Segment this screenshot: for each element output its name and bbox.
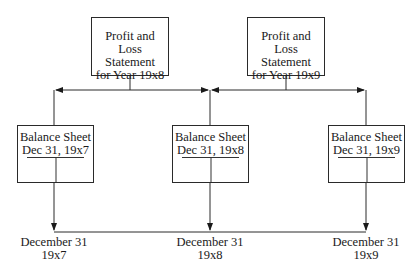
pl-statement-19x8: Profit and Loss Statement for Year 19x8 xyxy=(91,17,169,76)
balance-sheet-date: Dec 31, 19x7 xyxy=(18,144,93,157)
timeline-date-19x9: December 31 19x9 xyxy=(316,236,416,262)
pl-line1: Profit and Loss xyxy=(248,30,324,56)
balance-sheet-date: Dec 31, 19x8 xyxy=(173,144,248,157)
pl-line1: Profit and Loss xyxy=(92,30,168,56)
center-divider xyxy=(210,157,211,182)
date-line2: 19x8 xyxy=(160,249,260,262)
timeline-date-19x7: December 31 19x7 xyxy=(4,236,104,262)
pl-statement-19x9: Profit and Loss Statement for Year 19x9 xyxy=(247,17,325,76)
center-divider xyxy=(55,157,56,182)
date-line2: 19x7 xyxy=(4,249,104,262)
pl-line3: for Year 19x8 xyxy=(92,69,168,82)
balance-sheet-19x8: Balance Sheet Dec 31, 19x8 xyxy=(172,125,249,183)
pl-line3: for Year 19x9 xyxy=(248,69,324,82)
balance-sheet-date: Dec 31, 19x9 xyxy=(329,144,404,157)
date-line2: 19x9 xyxy=(316,249,416,262)
timeline-date-19x8: December 31 19x8 xyxy=(160,236,260,262)
balance-sheet-19x9: Balance Sheet Dec 31, 19x9 xyxy=(328,125,405,183)
center-divider xyxy=(366,157,367,182)
balance-sheet-19x7: Balance Sheet Dec 31, 19x7 xyxy=(17,125,94,183)
